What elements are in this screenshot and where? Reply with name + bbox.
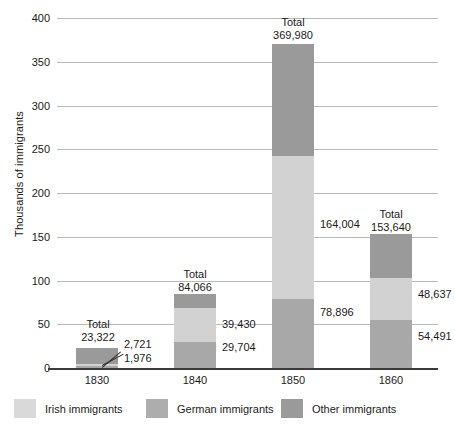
legend-item-irish[interactable]: Irish immigrants bbox=[14, 399, 123, 418]
bar-1850-german-value: 78,896 bbox=[320, 306, 354, 319]
bar-1830-irish-value: 1,976 bbox=[124, 352, 152, 365]
bar-1840-segment-irish bbox=[174, 308, 216, 343]
bar-1850[interactable] bbox=[272, 44, 314, 368]
bar-1840-segment-german bbox=[174, 342, 216, 368]
bar-1850-segment-irish bbox=[272, 156, 314, 300]
bar-1860-segment-german bbox=[370, 320, 412, 368]
y-tick-250: 250 bbox=[10, 143, 50, 155]
legend-label-irish: Irish immigrants bbox=[45, 403, 123, 415]
x-tick-1860: 1860 bbox=[346, 374, 436, 386]
bar-1860-total-word: Total bbox=[346, 208, 436, 221]
legend-item-other[interactable]: Other immigrants bbox=[281, 399, 396, 418]
bar-1860-segment-irish bbox=[370, 278, 412, 321]
bar-1840-total-word: Total bbox=[150, 268, 240, 281]
gridline-350 bbox=[57, 62, 438, 63]
bar-1850-total-word: Total bbox=[248, 16, 338, 29]
plot-area: 400 350 300 250 200 150 100 50 0 bbox=[57, 18, 438, 368]
bar-1840-segment-other bbox=[174, 294, 216, 307]
bar-1840-irish-value: 39,430 bbox=[222, 318, 256, 331]
y-tick-50: 50 bbox=[10, 318, 50, 330]
legend-label-german: German immigrants bbox=[177, 403, 274, 415]
y-tick-100: 100 bbox=[10, 275, 50, 287]
bar-1850-segment-german bbox=[272, 299, 314, 368]
x-axis-line bbox=[48, 368, 438, 370]
y-tick-200: 200 bbox=[10, 187, 50, 199]
gridline-200 bbox=[57, 193, 438, 194]
bar-1850-total-value: 369,980 bbox=[248, 29, 338, 42]
legend-swatch-irish-icon bbox=[14, 399, 36, 418]
bar-1830-segment-other bbox=[76, 348, 118, 364]
bar-1830-segment-german bbox=[76, 366, 118, 368]
bar-1850-segment-other bbox=[272, 44, 314, 155]
y-tick-400: 400 bbox=[10, 12, 50, 24]
bar-1830-german-value: 2,721 bbox=[124, 338, 152, 351]
bar-1840-german-value: 29,704 bbox=[222, 341, 256, 354]
chart-legend: Irish immigrants German immigrants Other… bbox=[0, 392, 455, 426]
gridline-300 bbox=[57, 106, 438, 107]
bar-1830-total-word: Total bbox=[53, 318, 143, 331]
bar-1860-irish-value: 48,637 bbox=[418, 288, 452, 301]
y-tick-300: 300 bbox=[10, 100, 50, 112]
x-tick-1850: 1850 bbox=[248, 374, 338, 386]
legend-item-german[interactable]: German immigrants bbox=[146, 399, 274, 418]
bar-1860-german-value: 54,491 bbox=[418, 330, 452, 343]
bar-1840[interactable] bbox=[174, 294, 216, 368]
y-tick-0: 0 bbox=[10, 362, 50, 374]
legend-swatch-other-icon bbox=[281, 399, 303, 418]
bar-1860[interactable] bbox=[370, 234, 412, 368]
y-tick-150: 150 bbox=[10, 231, 50, 243]
legend-swatch-german-icon bbox=[146, 399, 168, 418]
bar-1840-total-value: 84,066 bbox=[150, 281, 240, 294]
x-tick-1840: 1840 bbox=[150, 374, 240, 386]
legend-label-other: Other immigrants bbox=[312, 403, 396, 415]
y-tick-350: 350 bbox=[10, 56, 50, 68]
bar-1860-segment-other bbox=[370, 234, 412, 278]
stacked-bar-chart: Thousands of immigrants 400 350 300 250 … bbox=[0, 0, 455, 426]
x-tick-1830: 1830 bbox=[52, 374, 142, 386]
bar-1860-total-value: 153,640 bbox=[346, 221, 436, 234]
gridline-250 bbox=[57, 149, 438, 150]
